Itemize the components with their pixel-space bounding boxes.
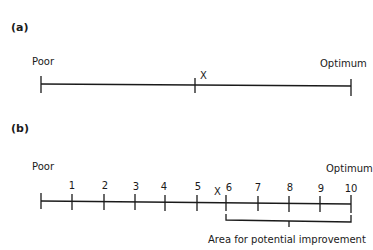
tick-label-2: 2	[102, 180, 108, 191]
panel-b-label: (b)	[11, 122, 29, 135]
tick-label-9: 9	[318, 183, 324, 194]
scale-line-b	[41, 201, 351, 204]
scale-line-a	[41, 84, 351, 86]
panel-a-optimum-label: Optimum	[320, 58, 367, 69]
improvement-bracket	[226, 214, 351, 222]
tick-label-10: 10	[345, 183, 358, 194]
improvement-area-label: Area for potential improvement	[208, 234, 366, 245]
panel-b-poor-label: Poor	[32, 161, 54, 172]
panel-a-marker: X	[200, 70, 207, 81]
panel-a-label: (a)	[11, 21, 28, 34]
panel-b-optimum-label: Optimum	[326, 163, 373, 174]
tick-label-4: 4	[161, 181, 167, 192]
tick-label-6: 6	[226, 182, 232, 193]
tick-label-8: 8	[287, 182, 293, 193]
scale-diagram	[0, 0, 373, 250]
tick-label-3: 3	[133, 181, 139, 192]
tick-label-5: 5	[195, 181, 201, 192]
panel-b-marker: X	[214, 186, 221, 197]
tick-label-1: 1	[69, 180, 75, 191]
tick-label-7: 7	[255, 182, 261, 193]
panel-a-poor-label: Poor	[32, 56, 54, 67]
